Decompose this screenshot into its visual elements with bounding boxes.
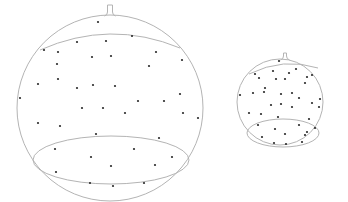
dot — [81, 107, 83, 109]
dot — [56, 63, 58, 65]
dot — [110, 55, 112, 57]
dot — [270, 104, 272, 106]
dot — [264, 87, 266, 89]
dot — [298, 97, 300, 99]
small-sphere — [237, 53, 323, 147]
dot — [95, 133, 97, 135]
dots — [19, 21, 199, 187]
dot — [314, 127, 316, 129]
diagram-canvas — [0, 0, 348, 202]
dot — [311, 74, 313, 76]
dot — [277, 116, 279, 118]
dot — [43, 49, 45, 51]
dot — [301, 141, 303, 143]
lower-cap-ellipse — [247, 119, 319, 147]
dot — [274, 128, 276, 130]
dot — [90, 156, 92, 158]
dot — [280, 103, 282, 105]
dot — [89, 182, 91, 184]
sphere-diagram — [0, 0, 348, 202]
dot — [278, 60, 280, 62]
dot — [275, 78, 277, 80]
dot — [76, 87, 78, 89]
dot — [263, 91, 265, 93]
dot — [306, 131, 308, 133]
dot — [148, 65, 150, 67]
dot — [308, 118, 310, 120]
dot — [272, 70, 274, 72]
dot — [171, 156, 173, 158]
dot — [105, 40, 107, 42]
dot — [304, 134, 306, 136]
dot — [258, 77, 260, 79]
dot — [291, 106, 293, 108]
dot — [284, 78, 286, 80]
dot — [291, 92, 293, 94]
dot — [181, 59, 183, 61]
dot — [254, 73, 256, 75]
dot — [131, 35, 133, 37]
dot — [285, 143, 287, 145]
dot — [306, 76, 308, 78]
stem — [105, 5, 116, 16]
dot — [76, 41, 78, 43]
dot — [280, 93, 282, 95]
dot — [59, 125, 61, 127]
dot — [257, 124, 259, 126]
dot — [319, 98, 321, 100]
dot — [143, 182, 145, 184]
dot — [112, 185, 114, 187]
upper-cap-line — [40, 34, 180, 50]
dot — [273, 142, 275, 144]
dot — [284, 133, 286, 135]
dot — [154, 164, 156, 166]
large-sphere — [17, 5, 203, 201]
dot — [133, 148, 135, 150]
dot — [318, 106, 320, 108]
dot — [239, 94, 241, 96]
dot — [97, 21, 99, 23]
lower-cap-ellipse — [33, 136, 189, 184]
dot — [182, 112, 184, 114]
dot — [92, 84, 94, 86]
dot — [158, 137, 160, 139]
dot — [295, 68, 297, 70]
dot — [155, 51, 157, 53]
dot — [163, 100, 165, 102]
dot — [248, 112, 250, 114]
dot — [19, 97, 21, 99]
dot — [57, 78, 59, 80]
sphere-outline — [237, 59, 323, 145]
dot — [102, 107, 104, 109]
dot — [110, 165, 112, 167]
dot — [304, 82, 306, 84]
dot — [252, 92, 254, 94]
dot — [54, 148, 56, 150]
dot — [137, 100, 139, 102]
dot — [260, 113, 262, 115]
dot — [197, 117, 199, 119]
dot — [288, 72, 290, 74]
dot — [124, 112, 126, 114]
dot — [91, 56, 93, 58]
dot — [57, 51, 59, 53]
dot — [261, 136, 263, 138]
dot — [179, 93, 181, 95]
dot — [55, 171, 57, 173]
dot — [37, 122, 39, 124]
dot — [298, 124, 300, 126]
dot — [311, 102, 313, 104]
dot — [114, 85, 116, 87]
dot — [37, 83, 39, 85]
